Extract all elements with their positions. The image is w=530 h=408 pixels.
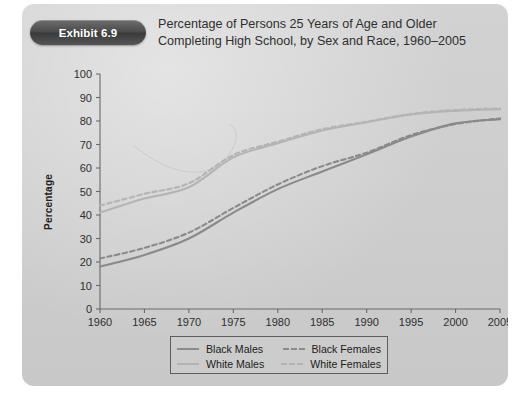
y-axis: 0102030405060708090100 xyxy=(74,68,100,315)
exhibit-title: Percentage of Persons 25 Years of Age an… xyxy=(158,16,498,49)
x-tick-label: 1980 xyxy=(266,316,290,328)
legend-label: Black Males xyxy=(206,343,263,355)
series-lines xyxy=(100,109,500,267)
legend-row: White Males White Females xyxy=(177,356,381,371)
legend-row: Black Males Black Females xyxy=(177,341,381,356)
chart-legend: Black Males Black Females White Males Wh… xyxy=(170,336,388,374)
series-line-white-males xyxy=(100,109,500,212)
x-tick-label: 1975 xyxy=(221,316,245,328)
y-tick-label: 90 xyxy=(80,92,92,104)
y-tick-label: 20 xyxy=(80,256,92,268)
x-tick-label: 1990 xyxy=(354,316,378,328)
x-tick-label: 2005 xyxy=(488,316,508,328)
y-tick-label: 10 xyxy=(80,280,92,292)
y-tick-label: 60 xyxy=(80,162,92,174)
x-tick-label: 1970 xyxy=(177,316,201,328)
y-tick-label: 100 xyxy=(74,68,92,80)
exhibit-badge: Exhibit 6.9 xyxy=(30,20,146,45)
x-tick-label: 1995 xyxy=(399,316,423,328)
legend-swatch-icon xyxy=(281,363,303,365)
legend-item-white-males: White Males xyxy=(177,358,281,370)
legend-label: White Females xyxy=(310,358,381,370)
x-tick-label: 1985 xyxy=(310,316,334,328)
line-chart: 0102030405060708090100 19601965197019751… xyxy=(22,62,508,332)
exhibit-panel: Exhibit 6.9 Percentage of Persons 25 Yea… xyxy=(22,4,508,386)
series-line-black-females xyxy=(100,118,500,258)
y-tick-label: 30 xyxy=(80,233,92,245)
series-line-white-females xyxy=(100,109,500,206)
series-line-black-males xyxy=(100,119,500,267)
legend-item-white-females: White Females xyxy=(281,358,381,370)
legend-swatch-icon xyxy=(283,348,305,350)
legend-item-black-females: Black Females xyxy=(283,343,381,355)
y-axis-title: Percentage xyxy=(43,174,54,230)
y-tick-label: 80 xyxy=(80,115,92,127)
legend-swatch-icon xyxy=(177,348,199,350)
x-tick-label: 1960 xyxy=(88,316,112,328)
y-tick-label: 50 xyxy=(80,186,92,198)
exhibit-badge-label: Exhibit 6.9 xyxy=(59,27,118,39)
exhibit-title-line-2: Completing High School, by Sex and Race,… xyxy=(158,33,498,50)
y-tick-label: 40 xyxy=(80,209,92,221)
x-axis: 1960196519701975198019851990199520002005 xyxy=(88,309,508,328)
y-tick-label: 0 xyxy=(86,303,92,315)
legend-swatch-icon xyxy=(177,363,199,365)
exhibit-header: Exhibit 6.9 Percentage of Persons 25 Yea… xyxy=(22,14,508,66)
y-tick-label: 70 xyxy=(80,139,92,151)
x-tick-label: 2000 xyxy=(443,316,467,328)
legend-label: Black Females xyxy=(312,343,381,355)
x-tick-label: 1965 xyxy=(132,316,156,328)
chart-canvas: 0102030405060708090100 19601965197019751… xyxy=(22,62,508,332)
legend-item-black-males: Black Males xyxy=(177,343,283,355)
exhibit-title-line-1: Percentage of Persons 25 Years of Age an… xyxy=(158,16,498,33)
legend-label: White Males xyxy=(206,358,264,370)
